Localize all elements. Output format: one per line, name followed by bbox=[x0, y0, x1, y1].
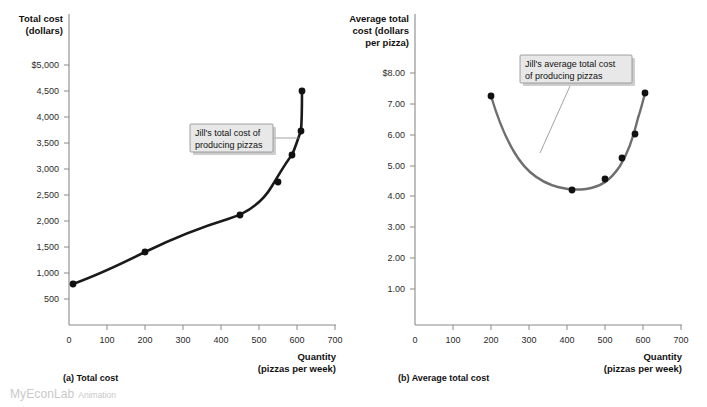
panel-a-caption: (a) Total cost bbox=[63, 373, 118, 383]
panel-a-marker-q550 bbox=[275, 179, 282, 186]
figure-container: Total cost (dollars) 500 1,00 bbox=[0, 0, 707, 407]
panel-a-total-cost-curve bbox=[73, 91, 302, 284]
panel-b-y-tick-label-1: 1.00 bbox=[387, 284, 405, 294]
panel-b-marker-q200 bbox=[488, 93, 495, 100]
panel-b-x-tick-label-400: 400 bbox=[559, 335, 574, 345]
panel-a-x-tick-labels: 0 100 200 300 400 500 600 700 bbox=[66, 335, 342, 345]
panel-b-y-axis-title-line1: Average total bbox=[349, 13, 409, 24]
panel-b-marker-q625 bbox=[632, 131, 639, 138]
panel-a-marker-q450 bbox=[237, 212, 244, 219]
panel-b-y-axis-title-line2: cost (dollars bbox=[353, 25, 410, 36]
panel-a-callout-line2: producing pizzas bbox=[195, 140, 263, 150]
panel-a-y-tick-label-4000: 4,000 bbox=[36, 112, 59, 122]
myeconlab-branding: MyEconLab Animation bbox=[10, 387, 116, 401]
panel-b-callout-line2: of producing pizzas bbox=[525, 71, 603, 81]
brand-name: MyEconLab bbox=[10, 387, 74, 401]
panel-b-x-ticks bbox=[453, 325, 681, 330]
panel-b-y-tick-label-3: 3.00 bbox=[387, 222, 405, 232]
panel-b-x-tick-label-200: 200 bbox=[483, 335, 498, 345]
panel-a-x-tick-label-700: 700 bbox=[327, 335, 342, 345]
panel-b-data-markers bbox=[488, 90, 649, 194]
panel-a-y-tick-label-1500: 1,500 bbox=[36, 242, 59, 252]
panel-b-x-tick-label-700: 700 bbox=[673, 335, 688, 345]
panel-a-y-tick-label-2000: 2,000 bbox=[36, 216, 59, 226]
figure-svg: Total cost (dollars) 500 1,00 bbox=[0, 0, 707, 407]
panel-a-callout: Jill's total cost of producing pizzas bbox=[190, 124, 276, 155]
panel-a-y-axis-title-line1: Total cost bbox=[19, 13, 64, 24]
panel-a-x-tick-label-0: 0 bbox=[66, 335, 71, 345]
panel-b-x-tick-label-500: 500 bbox=[597, 335, 612, 345]
panel-a-y-axis-title-line2: (dollars) bbox=[26, 25, 63, 36]
panel-a-x-axis-title-line1: Quantity bbox=[297, 351, 336, 362]
panel-b-caption: (b) Average total cost bbox=[398, 373, 489, 383]
panel-b-x-axis-title-line1: Quantity bbox=[643, 351, 682, 362]
panel-a-y-tick-label-1000: 1,000 bbox=[36, 268, 59, 278]
panel-b-x-tick-label-0: 0 bbox=[412, 335, 417, 345]
panel-b-callout-leader bbox=[540, 86, 570, 153]
panel-a-y-ticks bbox=[64, 65, 69, 299]
panel-a-x-tick-label-600: 600 bbox=[289, 335, 304, 345]
panel-a-x-tick-label-500: 500 bbox=[251, 335, 266, 345]
panel-b-y-ticks bbox=[410, 73, 415, 289]
brand-subtitle: Animation bbox=[78, 390, 116, 400]
panel-b-x-tick-label-600: 600 bbox=[635, 335, 650, 345]
panel-a-y-tick-label-2500: 2,500 bbox=[36, 190, 59, 200]
panel-a-marker-q600 bbox=[289, 152, 296, 159]
panel-a-total-cost: Total cost (dollars) 500 1,00 bbox=[19, 13, 343, 383]
panel-a-x-tick-label-400: 400 bbox=[213, 335, 228, 345]
panel-b-marker-q600 bbox=[619, 155, 626, 162]
panel-b-x-tick-labels: 0 100 200 300 400 500 600 700 bbox=[412, 335, 688, 345]
panel-b-y-tick-label-2: 2.00 bbox=[387, 253, 405, 263]
panel-a-marker-q10 bbox=[70, 281, 77, 288]
panel-b-average-total-cost-curve bbox=[491, 93, 645, 190]
panel-b-y-tick-label-7: 7.00 bbox=[387, 99, 405, 109]
panel-b-marker-q450 bbox=[569, 187, 576, 194]
panel-a-y-tick-label-5000: $5,000 bbox=[31, 60, 59, 70]
panel-b-x-axis-title-line2: (pizzas per week) bbox=[604, 363, 682, 374]
panel-a-y-tick-label-500: 500 bbox=[44, 294, 59, 304]
panel-a-callout-line1: Jill's total cost of bbox=[195, 128, 261, 138]
panel-b-y-tick-labels: 1.00 2.00 3.00 4.00 5.00 6.00 7.00 $8.00 bbox=[382, 68, 405, 294]
panel-b-marker-q550 bbox=[602, 176, 609, 183]
panel-a-x-tick-label-300: 300 bbox=[175, 335, 190, 345]
panel-b-y-axis-title-line3: per pizza) bbox=[365, 37, 409, 48]
panel-a-x-axis-title-line2: (pizzas per week) bbox=[258, 363, 336, 374]
panel-a-marker-q625 bbox=[298, 128, 305, 135]
panel-a-y-tick-labels: 500 1,000 1,500 2,000 2,500 3,000 3,500 … bbox=[31, 60, 59, 304]
panel-b-x-tick-label-100: 100 bbox=[445, 335, 460, 345]
panel-b-x-tick-label-300: 300 bbox=[521, 335, 536, 345]
panel-b-y-tick-label-5: 5.00 bbox=[387, 161, 405, 171]
panel-b-y-tick-label-4: 4.00 bbox=[387, 191, 405, 201]
panel-a-marker-q200 bbox=[142, 249, 149, 256]
panel-b-y-tick-label-8: $8.00 bbox=[382, 68, 405, 78]
panel-b-callout-line1: Jill's average total cost bbox=[525, 59, 616, 69]
panel-a-y-tick-label-4500: 4,500 bbox=[36, 86, 59, 96]
panel-a-x-tick-label-200: 200 bbox=[137, 335, 152, 345]
panel-b-marker-q650 bbox=[642, 90, 649, 97]
panel-a-y-tick-label-3000: 3,000 bbox=[36, 164, 59, 174]
panel-b-y-tick-label-6: 6.00 bbox=[387, 130, 405, 140]
panel-a-y-tick-label-3500: 3,500 bbox=[36, 138, 59, 148]
panel-a-marker-q650 bbox=[299, 88, 306, 95]
panel-b-callout: Jill's average total cost of producing p… bbox=[520, 55, 635, 86]
panel-a-x-ticks bbox=[107, 325, 335, 330]
panel-a-x-tick-label-100: 100 bbox=[99, 335, 114, 345]
panel-b-average-total-cost: Average total cost (dollars per pizza) 1… bbox=[349, 13, 688, 383]
